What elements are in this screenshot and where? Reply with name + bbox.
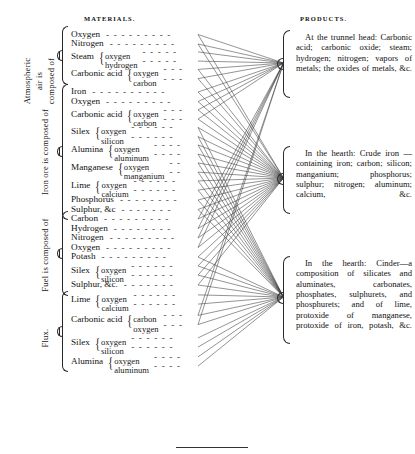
leader-dots: ------ — [134, 299, 180, 309]
connector-line — [198, 266, 284, 297]
connector-line — [198, 178, 284, 200]
leader-dots: --------- — [110, 233, 179, 243]
bottom-rule — [176, 447, 248, 448]
connector-line — [198, 35, 284, 64]
material-name: Oxygen — [71, 97, 100, 107]
part-brace: { — [95, 263, 100, 279]
connector-line — [198, 178, 284, 181]
product-brace-nib-tunnel-head — [277, 58, 284, 70]
material-name: Manganese — [71, 163, 113, 173]
material-name: Carbonic acid — [71, 315, 122, 325]
connector-line — [198, 200, 284, 297]
connector-line — [198, 63, 284, 102]
group-label-air: Atmospheric — [22, 58, 32, 105]
part-brace: { — [127, 66, 132, 82]
product-brace-nib-hearth-crude-iron — [277, 173, 284, 185]
leader-dots: --- — [164, 74, 187, 84]
product-brace-hearth-crude-iron — [283, 146, 290, 214]
material-name: Carbonic acid — [71, 110, 122, 120]
leader-dots: ---- — [154, 361, 185, 371]
part-brace: { — [95, 335, 100, 351]
material-name: Silex — [71, 266, 90, 276]
connector-line — [198, 297, 284, 347]
part-brace: { — [127, 312, 132, 328]
connector-line — [198, 190, 284, 297]
product-box-tunnel-head: At the trunnel head: Carbonic acid; carb… — [296, 32, 412, 84]
connector-line — [198, 178, 284, 238]
leader-dots: --- — [164, 320, 187, 330]
material-name: Alumina — [71, 357, 103, 367]
part-brace: { — [95, 178, 100, 194]
group-label-air: composed of — [46, 58, 56, 104]
material-name: Potash — [71, 252, 96, 262]
leader-dots: ------ — [134, 185, 180, 195]
product-brace-nib-hearth-cinder — [277, 292, 284, 304]
material-part: aluminum — [114, 366, 149, 375]
group-brace-nib-fuel — [57, 248, 63, 259]
product-text: In the hearth: Crude iron — containing i… — [296, 148, 412, 210]
leader-dots: -------- — [114, 224, 175, 234]
part-brace: { — [95, 124, 100, 140]
product-text: In the hearth: Cinder—a composition of s… — [296, 258, 412, 341]
group-label-flux: Flux. — [40, 329, 50, 348]
leader-dots: --------- — [104, 214, 173, 224]
connector-line — [198, 137, 284, 297]
group-label-ore: Iron ore is composed of — [40, 108, 50, 194]
group-brace-nib-flux — [57, 326, 63, 337]
leader-dots: -------- — [120, 195, 181, 205]
leader-dots: ------- — [124, 280, 178, 290]
part-brace: { — [118, 160, 123, 176]
connector-line — [198, 63, 284, 79]
material-name: Lime — [71, 181, 90, 191]
product-brace-tunnel-head — [283, 30, 290, 98]
material-part: calcium — [101, 304, 128, 313]
part-brace: { — [108, 142, 113, 158]
part-brace: { — [127, 107, 132, 123]
leader-dots: ---------- — [92, 87, 169, 97]
part-brace: { — [95, 292, 100, 308]
connector-line — [198, 63, 284, 248]
material-name: Steam — [71, 52, 94, 62]
group-label-fuel: Fuel is composed of — [40, 218, 50, 291]
product-text: At the trunnel head: Carbonic acid; carb… — [296, 32, 412, 84]
connector-line — [198, 79, 284, 178]
leader-dots: --------- — [106, 243, 175, 253]
connector-line — [198, 178, 284, 275]
material-name: Sulphur, &c. — [71, 280, 118, 290]
part-brace: { — [108, 354, 113, 370]
material-name: Lime — [71, 295, 90, 305]
connector-line — [198, 102, 284, 179]
product-box-hearth-cinder: In the hearth: Cinder—a composition of s… — [296, 258, 412, 341]
material-name: Carbonic acid — [71, 69, 122, 79]
material-name: Silex — [71, 127, 90, 137]
product-box-hearth-crude-iron: In the hearth: Crude iron — containing i… — [296, 148, 412, 210]
material-name: Alumina — [71, 145, 103, 155]
leader-dots: ------ — [131, 270, 177, 280]
leader-dots: ------ — [131, 342, 177, 352]
part-brace: { — [99, 49, 104, 65]
group-label-air: air is — [34, 72, 44, 90]
connector-line — [198, 137, 284, 178]
product-brace-hearth-cinder — [283, 256, 290, 344]
group-brace-nib-air — [57, 50, 63, 61]
connector-line — [198, 35, 284, 179]
group-brace-nib-ore — [57, 146, 63, 157]
leader-dots: --------- — [106, 30, 175, 40]
connector-line — [198, 210, 284, 298]
leader-dots: ------- — [122, 205, 176, 215]
diagram-canvas: MATERIALS. PRODUCTS. Atmosphericair isco… — [0, 0, 415, 454]
material-name: Silex — [71, 338, 90, 348]
connector-line — [198, 297, 284, 325]
